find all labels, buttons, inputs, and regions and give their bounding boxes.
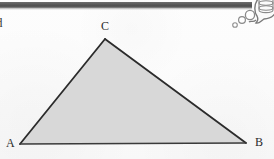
triangle-abc — [20, 39, 246, 144]
thought-bubble-group — [233, 0, 274, 27]
vertex-label-c: C — [101, 19, 109, 34]
thought-bubble-circle-3 — [233, 23, 238, 28]
scanned-page: d A B C — [0, 0, 274, 159]
thought-bubble-tail — [249, 20, 256, 22]
vertex-label-a: A — [6, 136, 15, 151]
vertex-label-b: B — [255, 135, 263, 150]
thought-bubble-circle-2 — [239, 17, 246, 24]
triangle-figure — [0, 0, 274, 159]
thought-bubble-circle-1 — [245, 10, 254, 19]
triangle-edge-ab — [20, 143, 246, 144]
